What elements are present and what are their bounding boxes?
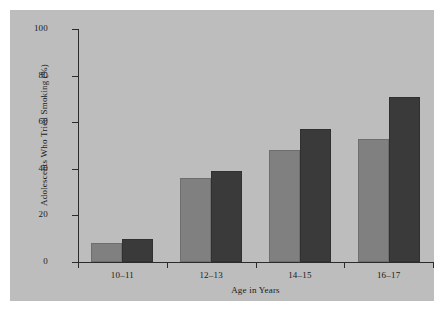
- x-tick-mark: [167, 262, 168, 268]
- bar: [300, 129, 331, 262]
- figure-container: 020406080100 10–1112–1314–1516–17 Age in…: [0, 0, 444, 313]
- y-tick-mark: [72, 76, 78, 77]
- y-tick-label: 0: [14, 257, 48, 266]
- bar: [358, 139, 389, 262]
- x-tick-label: 12–13: [176, 271, 246, 280]
- y-tick-mark: [72, 215, 78, 216]
- bar: [180, 178, 211, 262]
- bar: [211, 171, 242, 262]
- y-tick-label: 100: [14, 24, 48, 33]
- x-tick-mark: [344, 262, 345, 268]
- x-tick-label: 14–15: [265, 271, 335, 280]
- y-tick-mark: [72, 122, 78, 123]
- y-tick-mark: [72, 169, 78, 170]
- plot-area: 020406080100 10–1112–1314–1516–17 Age in…: [10, 10, 434, 301]
- x-axis-title: Age in Years: [78, 285, 433, 295]
- bar: [269, 150, 300, 262]
- x-tick-mark: [256, 262, 257, 268]
- y-tick-mark: [72, 29, 78, 30]
- bar: [389, 97, 420, 262]
- y-axis-line: [78, 29, 79, 262]
- bar: [122, 239, 153, 262]
- x-tick-label: 10–11: [87, 271, 157, 280]
- bar: [91, 243, 122, 262]
- y-axis-title: Adolescents Who Tried Smoking (%): [39, 35, 49, 235]
- x-tick-mark-origin: [78, 262, 79, 268]
- x-tick-mark-end: [433, 262, 434, 268]
- x-tick-label: 16–17: [354, 271, 424, 280]
- chart-panel: 020406080100 10–1112–1314–1516–17 Age in…: [10, 10, 434, 301]
